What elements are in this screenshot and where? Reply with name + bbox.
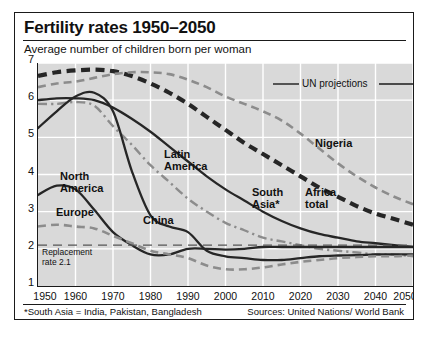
series-label: North America bbox=[60, 171, 103, 194]
page-title: Fertility rates 1950–2050 bbox=[24, 18, 216, 38]
series-label: Africa total bbox=[305, 187, 336, 210]
y-axis-tick-label: 7 bbox=[28, 54, 34, 65]
replacement-rate-annotation: Replacement rate 2.1 bbox=[42, 248, 92, 267]
un-projections-legend-label: UN projections bbox=[302, 78, 368, 89]
x-axis-tick-label: 2020 bbox=[289, 291, 312, 302]
x-axis-tick-label: 2050 bbox=[393, 291, 414, 302]
chart-subtitle: Average number of children born per woma… bbox=[24, 43, 251, 55]
x-axis-labels: 1950196019701980199020002010202020302040… bbox=[15, 291, 414, 305]
title-divider bbox=[23, 40, 406, 41]
x-axis-tick-label: 1950 bbox=[33, 291, 56, 302]
series-label: Nigeria bbox=[315, 138, 352, 150]
series-label: Latin America bbox=[164, 149, 207, 172]
y-axis-tick-label: 2 bbox=[28, 239, 34, 250]
x-axis-tick-label: 1960 bbox=[64, 291, 87, 302]
x-axis-line bbox=[37, 286, 413, 287]
series-label: Europe bbox=[56, 207, 94, 219]
y-axis-labels: 1234567 bbox=[17, 59, 36, 290]
x-axis-tick-label: 2000 bbox=[214, 291, 237, 302]
sources-note: Sources: United Nations/ World Bank bbox=[247, 306, 404, 317]
x-axis-tick-label: 1970 bbox=[101, 291, 124, 302]
y-axis-tick-label: 3 bbox=[28, 202, 34, 213]
x-axis-tick-label: 1990 bbox=[176, 291, 199, 302]
chart-figure: Fertility rates 1950–2050 Average number… bbox=[14, 12, 414, 320]
y-axis-tick-label: 6 bbox=[28, 91, 34, 102]
footer-divider bbox=[23, 304, 406, 305]
x-axis-tick-label: 2040 bbox=[364, 291, 387, 302]
x-axis-tick-label: 2010 bbox=[251, 291, 274, 302]
footnote: *South Asia = India, Pakistan, Banglades… bbox=[24, 306, 202, 317]
series-label: China bbox=[143, 215, 174, 227]
x-axis-tick-label: 2030 bbox=[326, 291, 349, 302]
y-axis-tick-label: 5 bbox=[28, 128, 34, 139]
series-label: South Asia* bbox=[252, 187, 283, 210]
y-axis-tick-label: 4 bbox=[28, 165, 34, 176]
y-axis-tick-label: 1 bbox=[28, 277, 34, 288]
x-axis-tick-label: 1980 bbox=[139, 291, 162, 302]
